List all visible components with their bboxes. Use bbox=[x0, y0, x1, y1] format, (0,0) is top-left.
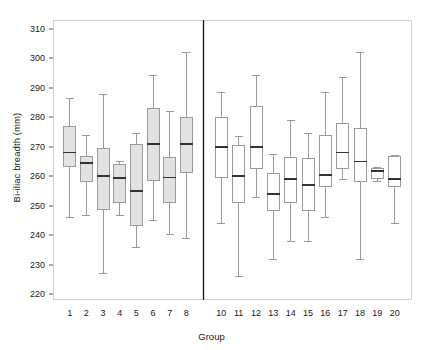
box-iqr bbox=[113, 164, 126, 202]
whisker-upper bbox=[256, 75, 257, 107]
cap-lower bbox=[321, 217, 329, 218]
y-tick-label: 230 bbox=[19, 260, 45, 270]
box-iqr bbox=[97, 148, 110, 210]
x-tick-label: 19 bbox=[372, 308, 382, 318]
y-tick-label: 280 bbox=[19, 112, 45, 122]
x-tick-label: 16 bbox=[320, 308, 330, 318]
boxplot-figure: Bi-iliac breadth (mm) Group 220230240250… bbox=[0, 0, 423, 350]
box-iqr bbox=[80, 156, 93, 183]
cap-upper bbox=[217, 92, 225, 93]
cap-upper bbox=[182, 52, 190, 53]
whisker-lower bbox=[238, 203, 239, 277]
cap-lower bbox=[391, 223, 399, 224]
median-line bbox=[250, 146, 263, 148]
cap-lower bbox=[339, 179, 347, 180]
whisker-upper bbox=[273, 154, 274, 173]
median-line bbox=[302, 184, 315, 186]
median-line bbox=[180, 143, 193, 145]
y-tick-label: 310 bbox=[19, 24, 45, 34]
whisker-lower bbox=[273, 211, 274, 259]
whisker-lower bbox=[325, 187, 326, 217]
x-tick-label: 3 bbox=[100, 308, 105, 318]
cap-lower bbox=[166, 234, 174, 235]
cap-lower bbox=[235, 276, 243, 277]
cap-lower bbox=[132, 247, 140, 248]
box-iqr bbox=[336, 123, 349, 169]
whisker-upper bbox=[86, 135, 87, 156]
whisker-lower bbox=[221, 178, 222, 224]
x-tick-label: 7 bbox=[167, 308, 172, 318]
box-iqr bbox=[250, 106, 263, 169]
median-line bbox=[97, 175, 110, 177]
cap-lower bbox=[66, 217, 74, 218]
median-line bbox=[354, 161, 367, 163]
y-tick-label: 240 bbox=[19, 230, 45, 240]
x-tick-label: 5 bbox=[134, 308, 139, 318]
whisker-upper bbox=[325, 92, 326, 135]
x-tick-label: 6 bbox=[150, 308, 155, 318]
box-iqr bbox=[267, 173, 280, 210]
y-tick-label: 300 bbox=[19, 53, 45, 63]
median-line bbox=[80, 162, 93, 164]
cap-lower bbox=[99, 273, 107, 274]
median-line bbox=[267, 193, 280, 195]
whisker-upper bbox=[308, 133, 309, 157]
whisker-lower bbox=[256, 169, 257, 196]
box-iqr bbox=[232, 145, 245, 202]
cap-lower bbox=[182, 238, 190, 239]
median-line bbox=[336, 152, 349, 154]
box-iqr bbox=[388, 156, 401, 188]
whisker-lower bbox=[86, 182, 87, 214]
cap-upper bbox=[132, 133, 140, 134]
cap-upper bbox=[99, 94, 107, 95]
y-tick-label: 220 bbox=[19, 289, 45, 299]
x-axis-title: Group bbox=[0, 331, 423, 342]
x-tick-label: 11 bbox=[234, 308, 243, 318]
y-tick-label: 250 bbox=[19, 201, 45, 211]
box-iqr bbox=[63, 126, 76, 167]
whisker-lower bbox=[103, 210, 104, 273]
median-line bbox=[388, 178, 401, 180]
whisker-upper bbox=[290, 120, 291, 157]
cap-lower bbox=[116, 215, 124, 216]
median-line bbox=[319, 174, 332, 176]
cap-lower bbox=[269, 259, 277, 260]
box-iqr bbox=[354, 128, 367, 183]
whisker-upper bbox=[69, 98, 70, 126]
median-line bbox=[284, 178, 297, 180]
y-tick-label: 270 bbox=[19, 142, 45, 152]
x-tick-label: 8 bbox=[184, 308, 189, 318]
whisker-lower bbox=[153, 181, 154, 221]
x-tick-label: 14 bbox=[286, 308, 296, 318]
panel-divider bbox=[203, 20, 204, 300]
cap-upper bbox=[235, 136, 243, 137]
x-tick-label: 15 bbox=[303, 308, 313, 318]
cap-upper bbox=[252, 75, 260, 76]
cap-lower bbox=[373, 181, 381, 182]
cap-lower bbox=[287, 241, 295, 242]
median-line bbox=[147, 143, 160, 145]
whisker-lower bbox=[394, 187, 395, 223]
cap-lower bbox=[217, 223, 225, 224]
cap-upper bbox=[166, 111, 174, 112]
box-iqr bbox=[130, 144, 143, 227]
whisker-lower bbox=[360, 182, 361, 259]
median-line bbox=[130, 190, 143, 192]
cap-upper bbox=[66, 98, 74, 99]
whisker-lower bbox=[69, 167, 70, 217]
whisker-lower bbox=[169, 203, 170, 234]
whisker-lower bbox=[136, 226, 137, 247]
whisker-upper bbox=[186, 52, 187, 117]
cap-upper bbox=[82, 135, 90, 136]
cap-upper bbox=[321, 92, 329, 93]
cap-lower bbox=[149, 220, 157, 221]
cap-upper bbox=[116, 161, 124, 162]
median-line bbox=[232, 175, 245, 177]
x-tick-label: 20 bbox=[390, 308, 400, 318]
x-tick-label: 4 bbox=[117, 308, 122, 318]
x-tick-label: 18 bbox=[355, 308, 365, 318]
whisker-upper bbox=[342, 77, 343, 123]
x-tick-label: 13 bbox=[268, 308, 278, 318]
y-tick-label: 290 bbox=[19, 83, 45, 93]
whisker-upper bbox=[360, 52, 361, 127]
